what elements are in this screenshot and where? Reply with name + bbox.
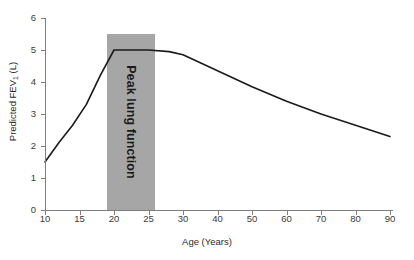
y-tick-label: 3	[22, 109, 36, 119]
x-axis-title: Age (Years)	[0, 236, 414, 247]
x-tick-label: 20	[99, 214, 129, 224]
x-tick-label: 80	[341, 214, 371, 224]
x-tick-label: 40	[203, 214, 233, 224]
y-tick-mark	[41, 82, 45, 83]
x-tick-label: 90	[375, 214, 405, 224]
y-axis-title-unit: (L)	[7, 62, 18, 76]
y-tick-mark	[41, 114, 45, 115]
x-tick-label: 25	[134, 214, 164, 224]
x-axis-line	[45, 210, 393, 211]
y-tick-mark	[41, 50, 45, 51]
x-tick-label: 60	[272, 214, 302, 224]
x-tick-label: 15	[65, 214, 95, 224]
y-axis-line	[45, 18, 46, 211]
y-axis-title-subscript: 1	[12, 76, 19, 80]
x-tick-label: 10	[30, 214, 60, 224]
y-tick-label: 1	[22, 173, 36, 183]
y-tick-mark	[41, 146, 45, 147]
x-tick-label: 50	[237, 214, 267, 224]
y-tick-label: 4	[22, 77, 36, 87]
y-tick-label: 5	[22, 45, 36, 55]
x-tick-label: 70	[306, 214, 336, 224]
chart-figure: Peak lung function 0123456 1015202530405…	[0, 0, 414, 260]
y-axis-title-text: Predicted FEV	[7, 80, 18, 141]
x-tick-label: 30	[168, 214, 198, 224]
y-tick-mark	[41, 178, 45, 179]
y-tick-label: 6	[22, 13, 36, 23]
y-axis-title: Predicted FEV1 (L)	[7, 27, 18, 177]
y-tick-mark	[41, 18, 45, 19]
y-tick-label: 2	[22, 141, 36, 151]
